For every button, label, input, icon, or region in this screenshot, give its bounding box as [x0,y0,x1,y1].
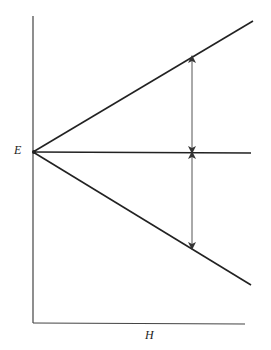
origin-dot [32,150,36,154]
y-axis-label: E [14,143,21,158]
zeeman-diagram [0,0,271,350]
upper-level-line [33,21,253,152]
x-axis-label: H [145,328,154,343]
middle-level-line [33,152,251,153]
lower-level-line [33,152,251,285]
x-axis [33,323,245,324]
